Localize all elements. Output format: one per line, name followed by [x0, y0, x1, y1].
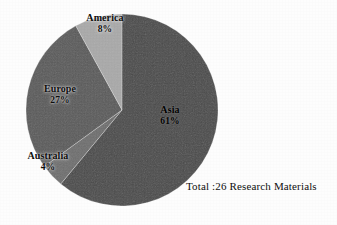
pie-slice-label-asia: Asia 61%	[140, 104, 200, 127]
pie-slice-name-america: America	[86, 12, 123, 23]
pie-slice-percent-asia: 61%	[140, 116, 200, 128]
pie-slice-percent-australia: 4%	[6, 162, 90, 174]
total-caption: Total :26 Research Materials	[186, 180, 317, 192]
pie-slice-name-europe: Europe	[44, 83, 76, 94]
pie-slice-label-europe: Europe 27%	[24, 83, 96, 106]
pie-slice-percent-america: 8%	[68, 24, 142, 36]
pie-slice-percent-europe: 27%	[24, 95, 96, 107]
pie-slice-label-australia: Australia 4%	[6, 150, 90, 173]
pie-slice-name-australia: Australia	[28, 150, 69, 161]
pie-slice-label-america: America 8%	[68, 12, 142, 35]
pie-chart-figure: Asia 61% Australia 4% Europe 27% America…	[0, 0, 337, 225]
pie-slice-name-asia: Asia	[160, 104, 179, 115]
